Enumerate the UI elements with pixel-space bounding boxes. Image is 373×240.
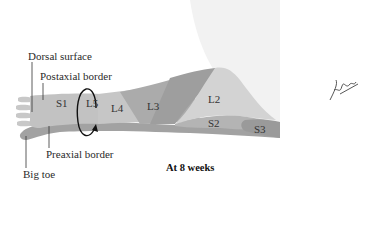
label-preaxial-border: Preaxial border xyxy=(46,149,114,160)
figure-caption: At 8 weeks xyxy=(166,162,214,173)
label-big-toe: Big toe xyxy=(23,169,55,180)
segment-label-l3: L3 xyxy=(147,101,159,112)
segment-label-s3: S3 xyxy=(254,124,266,135)
signature-mark xyxy=(330,80,358,100)
label-dorsal-surface: Dorsal surface xyxy=(28,51,92,62)
segment-label-l4: L4 xyxy=(111,103,123,114)
label-postaxial-border: Postaxial border xyxy=(40,71,112,82)
segment-label-l5: L5 xyxy=(86,98,98,109)
segment-label-s2: S2 xyxy=(208,118,220,129)
segment-label-l2: L2 xyxy=(208,94,220,105)
segment-label-s1: S1 xyxy=(56,98,68,109)
